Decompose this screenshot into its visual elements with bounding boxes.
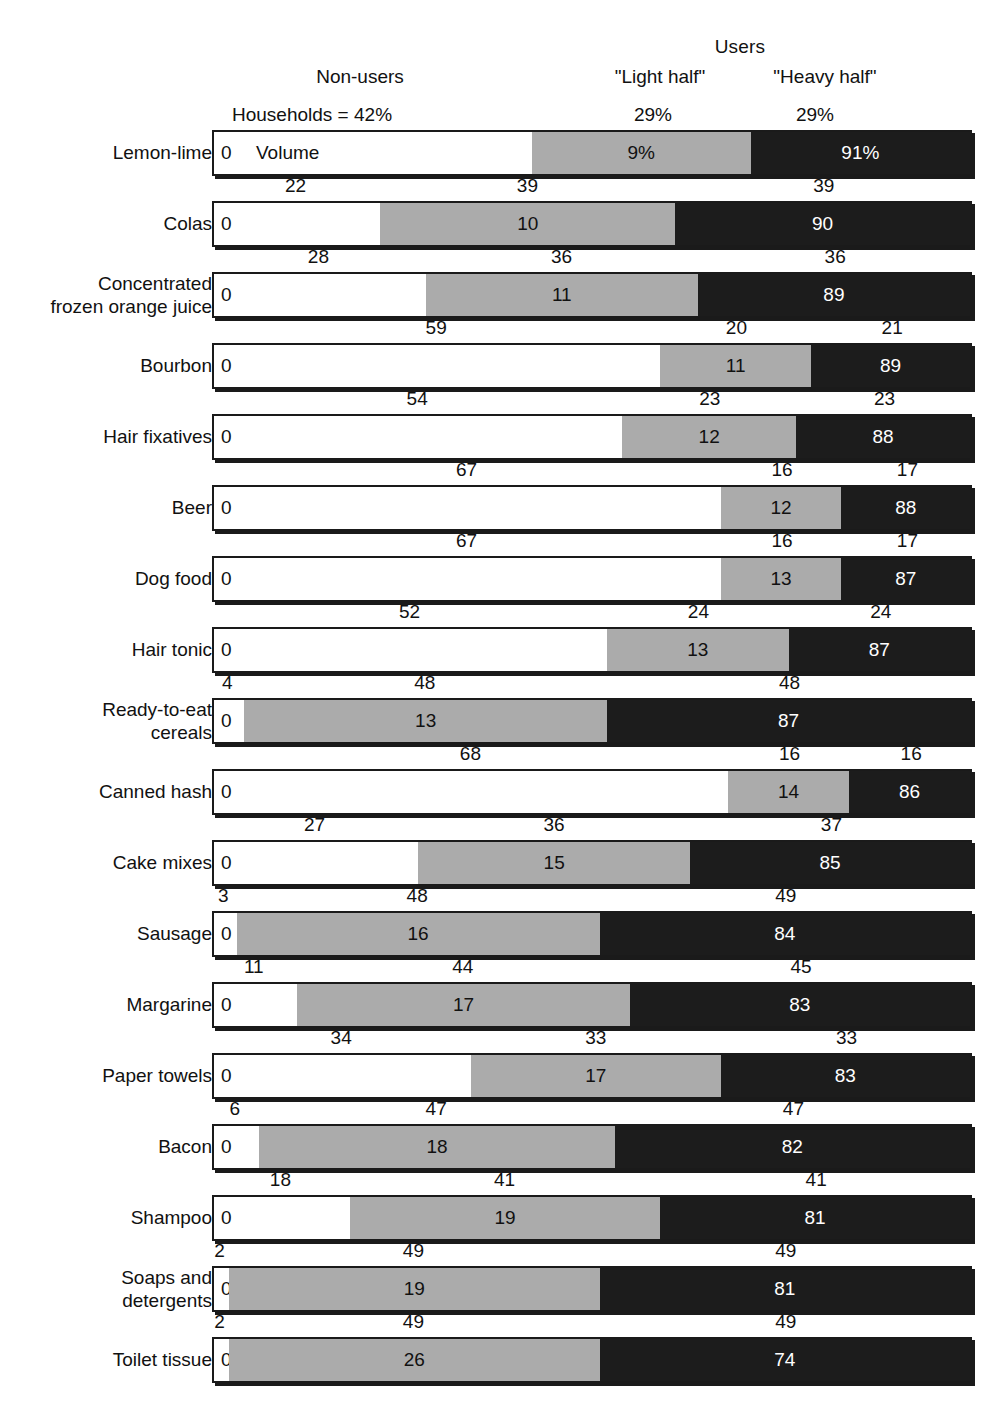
bar-segment-light[interactable]: 11 [660,345,811,387]
bar-segment-nonuser[interactable]: 0 [214,1197,350,1239]
bar-segment-light[interactable]: 19 [350,1197,660,1239]
bar-segment-light[interactable]: 9% [532,132,751,174]
bar-segment-heavy[interactable]: 87 [789,629,970,671]
bar-segment-light[interactable]: 13 [721,558,842,600]
bar-segment-light[interactable]: 12 [721,487,842,529]
bar-segment-light[interactable]: 15 [418,842,690,884]
bar-segment-light[interactable]: 13 [244,700,607,742]
chart-row: Toilet tissue2494902674 [0,1337,1006,1408]
bar-segment-light[interactable]: 13 [607,629,788,671]
bar-segment-heavy[interactable]: 91% [751,132,970,174]
bar-segment-nonuser[interactable]: 0 [214,487,721,529]
chart-row: Sausage3484901684 [0,911,1006,982]
category-label: Paper towels [0,1064,212,1087]
bar-segment-light[interactable]: 11 [426,274,698,316]
household-percent-label-light: 48 [382,885,452,907]
bar-segment-light[interactable]: 17 [471,1055,720,1097]
bar-segment-heavy[interactable]: 84 [600,913,970,955]
bar-segment-nonuser[interactable]: 0 [214,700,244,742]
stacked-bar[interactable]: 01189 [212,272,972,318]
segment-volume-value: 0 [214,1065,471,1087]
bar-segment-heavy[interactable]: 81 [660,1197,970,1239]
stacked-bar[interactable]: 01090 [212,201,972,247]
segment-volume-value: 89 [811,355,970,377]
stacked-bar[interactable]: 01882 [212,1124,972,1170]
bar-segment-light[interactable]: 26 [229,1339,599,1381]
stacked-bar[interactable]: 01981 [212,1266,972,1312]
bar-segment-heavy[interactable]: 83 [721,1055,970,1097]
bar-segment-nonuser[interactable]: 0 [214,345,660,387]
bar-segment-nonuser[interactable]: 0 [214,984,297,1026]
segment-volume-value: 19 [350,1207,660,1229]
household-percent-label-heavy: 39 [789,175,859,197]
category-label: Concentrated frozen orange juice [0,272,212,318]
stacked-bar[interactable]: 01981 [212,1195,972,1241]
household-percent-label-light: 36 [519,814,589,836]
header-households-label: Households = 42% [232,104,392,126]
stacked-bar[interactable]: 01783 [212,1053,972,1099]
bar-segment-nonuser[interactable]: 0 [214,274,426,316]
stacked-bar[interactable]: 01486 [212,769,972,815]
stacked-bar[interactable]: 01288 [212,485,972,531]
bar-segment-nonuser[interactable]: 0 [214,1339,229,1381]
bar-segment-nonuser[interactable]: 0 [214,203,380,245]
bar-segment-light[interactable]: 10 [380,203,675,245]
bar-segment-nonuser[interactable]: 0 [214,629,607,671]
stacked-bar[interactable]: 01783 [212,982,972,1028]
stacked-bar[interactable]: 01387 [212,556,972,602]
bar-segment-heavy[interactable]: 89 [698,274,970,316]
bar-segment-heavy[interactable]: 81 [600,1268,970,1310]
bar-segment-nonuser[interactable]: 0 [214,416,622,458]
stacked-bar[interactable]: 01387 [212,627,972,673]
bar-segment-nonuser[interactable]: 0 [214,1055,471,1097]
bar-segment-light[interactable]: 12 [622,416,796,458]
bar-segment-heavy[interactable]: 86 [849,771,970,813]
household-percent-label-light: 24 [663,601,733,623]
stacked-bar[interactable]: 02674 [212,1337,972,1383]
stacked-bar[interactable]: 01684 [212,911,972,957]
bar-segment-nonuser[interactable]: 0 [214,558,721,600]
bar-segment-light[interactable]: 16 [237,913,600,955]
bar-segment-nonuser[interactable]: 0 [214,1268,229,1310]
segment-volume-value: 0 [214,710,244,732]
bar-segment-light[interactable]: 14 [728,771,849,813]
household-percent-label-light: 16 [747,530,817,552]
household-percent-label-light: 36 [527,246,597,268]
category-label: Cake mixes [0,851,212,874]
segment-volume-value: 13 [244,710,607,732]
bar-segment-heavy[interactable]: 87 [841,558,970,600]
bar-segment-nonuser[interactable]: 0Volume [214,132,532,174]
bar-segment-heavy[interactable]: 89 [811,345,970,387]
category-label: Lemon-lime [0,141,212,164]
bar-segment-heavy[interactable]: 74 [600,1339,970,1381]
household-percent-label-nonuser: 59 [401,317,471,339]
bar-segment-nonuser[interactable]: 0 [214,842,418,884]
bar-segment-nonuser[interactable]: 0 [214,771,728,813]
bar-segment-heavy[interactable]: 85 [690,842,970,884]
stacked-bar[interactable]: 01288 [212,414,972,460]
bar-segment-heavy[interactable]: 88 [841,487,970,529]
segment-volume-value: 81 [600,1278,970,1300]
household-percent-label-light: 39 [492,175,562,197]
bar-segment-light[interactable]: 19 [229,1268,599,1310]
bar-segment-light[interactable]: 18 [259,1126,614,1168]
stacked-bar[interactable]: 01387 [212,698,972,744]
bar-segment-heavy[interactable]: 88 [796,416,970,458]
stacked-bar[interactable]: 01585 [212,840,972,886]
bar-segment-heavy[interactable]: 90 [675,203,970,245]
stacked-bar[interactable]: 0Volume9%91% [212,130,972,176]
segment-volume-value: 0 [214,568,721,590]
header-users-label: Users [680,36,800,58]
household-percent-label-nonuser: 2 [185,1311,255,1333]
segment-volume-value: 12 [721,497,842,519]
bar-segment-heavy[interactable]: 82 [615,1126,970,1168]
bar-segment-light[interactable]: 17 [297,984,630,1026]
bar-segment-nonuser[interactable]: 0 [214,1126,259,1168]
segment-volume-value: 16 [237,923,600,945]
stacked-bar[interactable]: 01189 [212,343,972,389]
bar-segment-heavy[interactable]: 87 [607,700,970,742]
bar-segment-heavy[interactable]: 83 [630,984,970,1026]
segment-volume-value: 87 [789,639,970,661]
bar-segment-nonuser[interactable]: 0 [214,913,237,955]
household-percent-label-heavy: 41 [781,1169,851,1191]
